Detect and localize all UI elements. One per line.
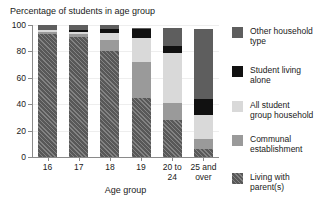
y-axis-label: 0 — [21, 152, 26, 162]
bar-segment — [69, 34, 88, 37]
legend-swatch-icon — [232, 27, 243, 38]
bar-segment — [163, 28, 182, 46]
legend-item[interactable]: Other householdtype — [232, 26, 322, 46]
bar-segment — [100, 51, 119, 157]
legend-label-line: Communal — [250, 134, 302, 144]
x-axis-label-line: 25 and — [182, 162, 224, 172]
bar-segment — [194, 29, 213, 99]
legend-label-line: Living with — [250, 172, 290, 182]
legend-label-line: type — [250, 36, 313, 46]
legend-label-line: Other household — [250, 26, 313, 36]
x-axis-tick — [141, 157, 142, 161]
y-axis-label: 20 — [17, 126, 26, 136]
legend-label: Other householdtype — [250, 26, 313, 46]
x-axis-line — [32, 157, 219, 158]
bar-segment — [100, 40, 119, 52]
legend-label: Communalestablishment — [250, 134, 302, 154]
y-axis-line — [32, 25, 33, 157]
legend-label: Student livingalone — [250, 65, 301, 85]
bar-segment — [69, 37, 88, 157]
bar-20-to-24[interactable] — [163, 25, 182, 157]
legend-label-line: parent(s) — [250, 182, 290, 192]
legend-item[interactable]: Living withparent(s) — [232, 172, 322, 192]
x-axis-tick — [172, 157, 173, 161]
y-axis-tick — [28, 157, 33, 158]
bar-segment — [194, 149, 213, 157]
bar-25-and-over[interactable] — [194, 25, 213, 157]
bar-19[interactable] — [132, 25, 151, 157]
legend-item[interactable]: Student livingalone — [232, 65, 322, 85]
bar-18[interactable] — [100, 25, 119, 157]
x-axis-title: Age group — [32, 185, 219, 195]
legend-item[interactable]: Communalestablishment — [232, 134, 322, 154]
y-axis-tick — [28, 25, 33, 26]
bar-segment — [163, 53, 182, 103]
x-axis-tick — [79, 157, 80, 161]
legend-label: All studentgroup household — [250, 100, 313, 120]
bar-segment — [38, 32, 57, 35]
legend-label-line: Student living — [250, 65, 301, 75]
bar-segment — [100, 33, 119, 40]
bar-17[interactable] — [69, 25, 88, 157]
bar-segment — [163, 46, 182, 53]
legend-swatch-icon — [232, 66, 243, 77]
y-axis-label: 40 — [17, 99, 26, 109]
legend-label-line: All student — [250, 100, 313, 110]
gridline — [33, 25, 219, 26]
gridline — [33, 104, 219, 105]
legend-label: Living withparent(s) — [250, 172, 290, 192]
chart-page: Percentage of students in age group 0204… — [0, 0, 323, 205]
y-axis-tick — [28, 78, 33, 79]
x-axis-tick — [203, 157, 204, 161]
y-axis-tick — [28, 51, 33, 52]
bar-segment — [132, 38, 151, 62]
bar-segment — [100, 29, 119, 33]
bar-16[interactable] — [38, 25, 57, 157]
y-axis-label: 100 — [12, 20, 26, 30]
x-axis-label-line: over — [182, 172, 224, 182]
bar-segment — [132, 28, 151, 29]
bar-segment — [132, 98, 151, 157]
gridline — [33, 51, 219, 52]
bar-segment — [100, 25, 119, 29]
bar-segment — [69, 30, 88, 31]
bar-segment — [163, 103, 182, 120]
gridline — [33, 131, 219, 132]
legend-swatch-icon — [232, 101, 243, 112]
bar-segment — [163, 120, 182, 157]
y-axis-tick — [28, 131, 33, 132]
legend-swatch-icon — [232, 173, 243, 184]
legend-swatch-icon — [232, 135, 243, 146]
bar-segment — [194, 115, 213, 139]
y-axis-label: 60 — [17, 73, 26, 83]
bar-segment — [38, 30, 57, 31]
y-axis-label: 80 — [17, 46, 26, 56]
bar-segment — [132, 62, 151, 98]
plot-area: 020406080100 1617181920 to2425 andover — [32, 25, 219, 157]
x-axis-tick — [48, 157, 49, 161]
bar-segment — [38, 25, 57, 30]
bar-segment — [194, 99, 213, 115]
x-axis-label: 25 andover — [182, 162, 224, 182]
bar-segment — [132, 29, 151, 38]
gridline — [33, 78, 219, 79]
legend-label-line: alone — [250, 75, 301, 85]
legend-item[interactable]: All studentgroup household — [232, 100, 322, 120]
bar-segment — [38, 34, 57, 157]
legend-label-line: group household — [250, 110, 313, 120]
x-axis-tick — [110, 157, 111, 161]
bar-segment — [194, 139, 213, 150]
bar-segment — [69, 25, 88, 30]
bar-segment — [69, 32, 88, 35]
y-axis-tick — [28, 104, 33, 105]
chart-title: Percentage of students in age group — [10, 6, 155, 16]
legend-label-line: establishment — [250, 144, 302, 154]
